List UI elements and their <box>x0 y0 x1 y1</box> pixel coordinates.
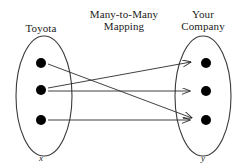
left-node-1 <box>36 58 46 68</box>
left-node-2 <box>36 85 46 95</box>
right-set-label: Your Company <box>170 8 236 32</box>
right-node-1 <box>201 58 211 68</box>
left-set-ellipse <box>16 36 72 156</box>
mapping-type-label: Many-to-Many Mapping <box>78 8 170 32</box>
left-node-3 <box>36 115 46 125</box>
edge-toyota2-to-company1 <box>48 62 191 88</box>
right-node-3 <box>201 115 211 125</box>
left-set-variable-label: x <box>8 152 74 164</box>
left-set-label: Toyota <box>8 22 74 34</box>
diagram-canvas: Toyota Many-to-Many Mapping Your Company… <box>0 0 241 168</box>
right-node-2 <box>201 86 211 96</box>
right-set-variable-label: y <box>170 152 236 164</box>
right-set-ellipse <box>175 36 231 156</box>
